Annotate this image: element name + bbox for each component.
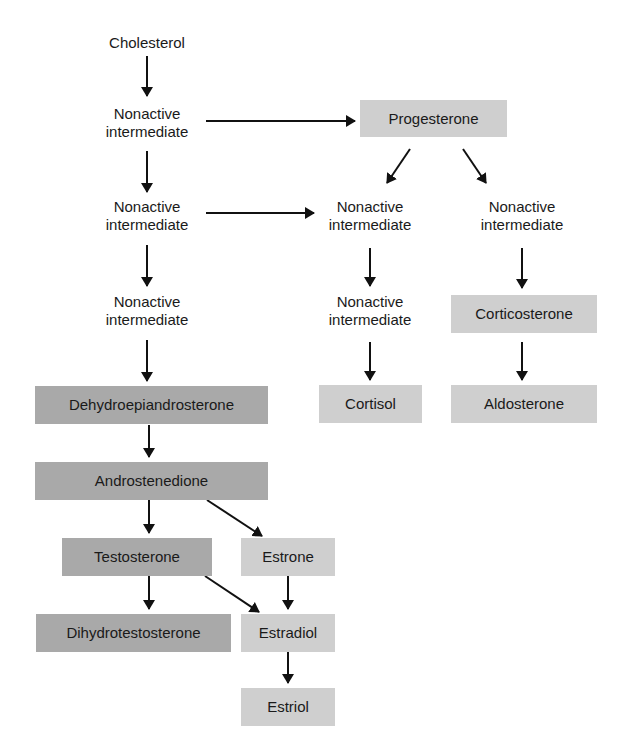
- node-estriol: Estriol: [241, 688, 335, 726]
- node-dehydroepiandrosterone: Dehydroepiandrosterone: [35, 386, 268, 424]
- node-cortisol: Cortisol: [319, 385, 422, 423]
- node-progesterone: Progesterone: [360, 100, 507, 137]
- node-nonactive-intermediate-3: Nonactive intermediate: [87, 291, 207, 331]
- arrow-progesterone-to-midintermediate: [387, 149, 410, 183]
- node-testosterone: Testosterone: [62, 538, 212, 576]
- node-cholesterol: Cholesterol: [87, 32, 207, 54]
- node-estradiol: Estradiol: [241, 614, 335, 652]
- node-nonactive-intermediate-1: Nonactive intermediate: [87, 103, 207, 143]
- node-nonactive-intermediate-right-1: Nonactive intermediate: [462, 196, 582, 236]
- arrow-progesterone-to-rightintermediate: [463, 149, 486, 183]
- node-nonactive-intermediate-2: Nonactive intermediate: [87, 196, 207, 236]
- node-nonactive-intermediate-mid-2: Nonactive intermediate: [310, 291, 430, 331]
- node-aldosterone: Aldosterone: [451, 385, 597, 423]
- node-nonactive-intermediate-mid-1: Nonactive intermediate: [310, 196, 430, 236]
- node-corticosterone: Corticosterone: [451, 295, 597, 333]
- arrow-testosterone-to-estradiol: [205, 576, 259, 612]
- node-androstenedione: Androstenedione: [35, 462, 268, 500]
- node-estrone: Estrone: [241, 538, 335, 576]
- node-dihydrotestosterone: Dihydrotestosterone: [36, 614, 231, 652]
- arrow-androstenedione-to-estrone: [207, 500, 262, 536]
